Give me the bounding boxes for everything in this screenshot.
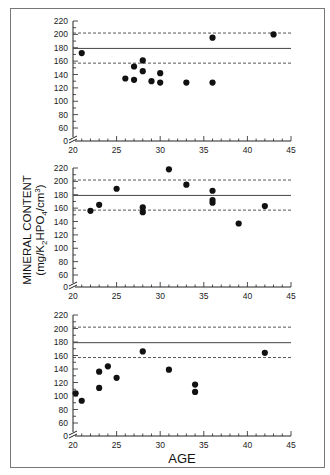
y-tick-label: 160: [54, 351, 68, 361]
axis-break-icon: [69, 136, 77, 143]
y-tick-label: 200: [54, 324, 68, 334]
data-point: [73, 390, 79, 396]
data-point: [157, 70, 163, 76]
y-axis-label: MINERAL CONTENT (mg/K2HPO4/cm3): [21, 175, 49, 284]
data-point: [131, 77, 137, 83]
y-tick-label: 80: [59, 110, 69, 120]
x-axis-label: AGE: [168, 451, 196, 466]
x-tick-label: 25: [112, 145, 122, 155]
data-point: [122, 75, 128, 81]
chart-canvas: 0608010012014016018020022020253035404506…: [0, 0, 330, 475]
y-tick-label: 160: [54, 56, 68, 66]
y-tick-label: 180: [54, 43, 68, 53]
axis-break-icon: [69, 282, 77, 289]
data-point: [192, 381, 198, 387]
data-point: [192, 389, 198, 395]
data-point: [96, 369, 102, 375]
y-tick-label: 100: [54, 243, 68, 253]
x-tick-label: 30: [155, 145, 165, 155]
data-point: [157, 79, 163, 85]
y-tick-label: 80: [59, 405, 69, 415]
data-point: [131, 63, 137, 69]
data-point: [236, 220, 242, 226]
x-tick-label: 35: [199, 440, 209, 450]
data-point: [140, 348, 146, 354]
x-tick-label: 45: [286, 291, 296, 301]
data-point: [140, 68, 146, 74]
data-point: [270, 31, 276, 37]
y-tick-label: 120: [54, 378, 68, 388]
axis-break-icon: [69, 431, 77, 438]
y-tick-label: 100: [54, 391, 68, 401]
x-tick-label: 25: [112, 291, 122, 301]
y-tick-label: 200: [54, 176, 68, 186]
x-tick-label: 40: [243, 440, 253, 450]
data-point: [209, 200, 215, 206]
y-tick-label: 120: [54, 83, 68, 93]
data-point: [262, 203, 268, 209]
x-tick-label: 25: [112, 440, 122, 450]
y-tick-label: 60: [59, 418, 69, 428]
y-tick-label: 200: [54, 29, 68, 39]
panel-bottom: 06080100120140160180200220202530354045: [54, 310, 296, 450]
data-point: [166, 166, 172, 172]
panels-group: 0608010012014016018020022020253035404506…: [54, 16, 296, 450]
data-point: [183, 182, 189, 188]
x-tick-label: 20: [68, 145, 78, 155]
panel-top: 06080100120140160180200220202530354045: [54, 16, 296, 155]
data-point: [87, 208, 93, 214]
panel-middle: 06080100120140160180200220202530354045: [54, 163, 296, 301]
data-point: [209, 188, 215, 194]
y-tick-label: 160: [54, 203, 68, 213]
y-axis-label-line2: (mg/K2HPO4/cm3): [33, 184, 49, 275]
data-point: [209, 35, 215, 41]
x-tick-label: 35: [199, 291, 209, 301]
x-tick-label: 35: [199, 145, 209, 155]
y-tick-label: 140: [54, 364, 68, 374]
y-tick-label: 120: [54, 230, 68, 240]
data-point: [209, 79, 215, 85]
y-tick-label: 180: [54, 337, 68, 347]
x-tick-label: 40: [243, 291, 253, 301]
x-tick-label: 45: [286, 440, 296, 450]
x-tick-label: 45: [286, 145, 296, 155]
x-tick-label: 30: [155, 440, 165, 450]
data-point: [140, 209, 146, 215]
data-point: [114, 375, 120, 381]
data-point: [79, 398, 85, 404]
data-point: [148, 78, 154, 84]
y-tick-label: 80: [59, 257, 69, 267]
data-point: [79, 50, 85, 56]
data-point: [166, 367, 172, 373]
y-tick-label: 100: [54, 96, 68, 106]
data-point: [183, 79, 189, 85]
x-tick-label: 40: [243, 145, 253, 155]
x-tick-label: 30: [155, 291, 165, 301]
x-tick-label: 20: [68, 440, 78, 450]
y-tick-label: 60: [59, 270, 69, 280]
y-tick-label: 220: [54, 310, 68, 320]
y-tick-label: 220: [54, 16, 68, 26]
data-point: [105, 363, 111, 369]
data-point: [114, 186, 120, 192]
y-tick-label: 60: [59, 123, 69, 133]
y-axis-label-line1: MINERAL CONTENT: [21, 175, 33, 284]
data-point: [96, 202, 102, 208]
y-tick-label: 140: [54, 70, 68, 80]
y-tick-label: 220: [54, 163, 68, 173]
data-point: [96, 385, 102, 391]
y-tick-label: 140: [54, 217, 68, 227]
y-tick-label: 180: [54, 190, 68, 200]
data-point: [140, 57, 146, 63]
x-tick-label: 20: [68, 291, 78, 301]
data-point: [262, 350, 268, 356]
